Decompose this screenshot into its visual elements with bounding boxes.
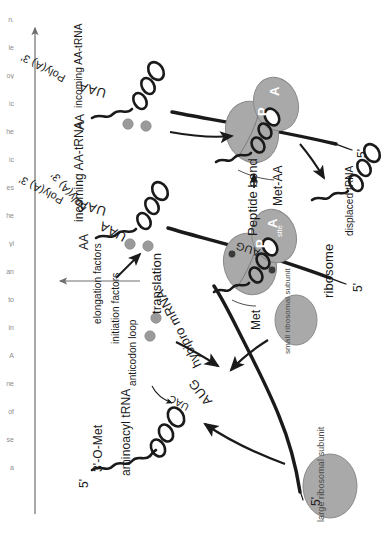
small-subunit-text: small ribosomal subunit <box>283 268 292 354</box>
margin-text-fragment: ic <box>0 100 14 107</box>
margin-text-fragment: a <box>0 464 14 471</box>
label-five-prime-mrna-3: 5' <box>356 149 369 158</box>
label-a-site-sub-2: site <box>288 204 296 216</box>
label-aa-3: AA <box>74 114 87 130</box>
margin-text-fragment: es <box>0 184 14 191</box>
margin-text-fragment: A <box>0 352 14 359</box>
margin-text-fragment: ic <box>0 156 14 163</box>
margin-text-fragment: oy <box>0 72 14 79</box>
margin-text-fragment: to <box>0 296 14 303</box>
label-anticodon-uac: UAC <box>167 393 191 412</box>
initiation-factors-text: initiation factors <box>110 273 121 344</box>
label-initiation-factors: initiation factors <box>110 282 123 344</box>
label-met-aa: Met-AA <box>272 165 285 206</box>
margin-text-fragment: in <box>0 324 14 331</box>
label-anticodon-loop: anticodon loop <box>128 320 139 386</box>
margin-text-fragment: he <box>0 128 14 135</box>
margin-text-fragment: ne <box>0 380 14 387</box>
label-incoming-aa-trna-3: incoming AA-tRNA <box>74 24 85 108</box>
label-displaced-trna: displaced tRNA <box>344 178 356 236</box>
elongation-factors-text: elongation factors <box>92 243 103 324</box>
figure-labels: 5' 3'-O-Met aminoacyl tRNA UAC anticodon… <box>0 0 392 536</box>
label-a-site-letter-3: A <box>268 87 282 97</box>
label-five-prime-trna-1: 5' <box>78 479 91 488</box>
label-3-o-met: 3'-O-Met <box>92 425 105 472</box>
margin-text-fragment: le <box>0 44 14 51</box>
label-p-site-letter-3: P <box>256 107 270 116</box>
margin-text-fragment: of <box>0 408 14 415</box>
label-elongation-factors: elongation factors <box>92 262 104 324</box>
label-aa-2: AA <box>78 234 91 250</box>
label-five-prime-mrna-2: 5' <box>352 283 365 292</box>
label-ribosome: ribosome <box>322 244 336 298</box>
label-a-site-letter-2: A <box>266 219 280 229</box>
margin-text-fragment: an <box>0 268 14 275</box>
displaced-trna-text: displaced tRNA <box>344 166 355 236</box>
page-margin-text-fragments: n.leoyicheicesheylantoinAneofsea <box>0 0 14 536</box>
label-large-ribosomal-subunit: large ribosomal subunit <box>316 450 327 522</box>
large-subunit-text: large ribosomal subunit <box>316 427 326 522</box>
margin-text-fragment: se <box>0 436 14 443</box>
label-met-2: Met <box>250 310 263 330</box>
margin-text-fragment: he <box>0 212 14 219</box>
label-polya-3: Poly(A) 3' <box>19 51 67 84</box>
margin-text-fragment: yl <box>0 240 14 247</box>
label-anticodon: anticodon loop <box>128 320 139 386</box>
label-peptide-bond: Peptide bond <box>246 158 260 236</box>
margin-text-fragment: n. <box>0 16 14 23</box>
label-small-ribosomal-subunit: small ribosomal subunit <box>283 286 293 354</box>
label-p-site-letter-2: P <box>254 239 268 248</box>
translation-figure: 5' 3'-O-Met aminoacyl tRNA UAC anticodon… <box>0 0 392 536</box>
label-stop-codon-uaa-1: UAA <box>97 219 128 244</box>
label-aminoacyl-trna: aminoacyl tRNA <box>120 389 133 476</box>
label-translation: translation <box>150 253 164 314</box>
